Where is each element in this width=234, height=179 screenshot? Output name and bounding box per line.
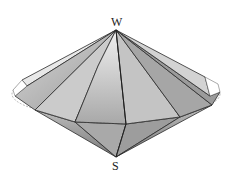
apex-label-w: W xyxy=(111,16,122,28)
apex-label-s: S xyxy=(112,160,119,172)
